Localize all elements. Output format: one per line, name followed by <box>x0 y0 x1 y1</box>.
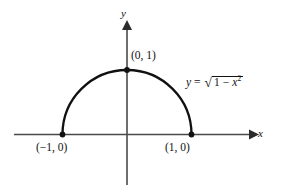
graph-canvas <box>0 0 282 190</box>
point-label-top: (0, 1) <box>131 50 156 62</box>
radicand-first-term: 1 <box>214 76 220 88</box>
semicircle-graph-figure: y x (0, 1) (−1, 0) (1, 0) y=√1−x2 <box>0 0 282 190</box>
curve-equation-label: y=√1−x2 <box>186 76 243 90</box>
radical-expression: √1−x2 <box>204 76 244 90</box>
equation-equals: = <box>194 76 201 88</box>
radicand-exponent: 2 <box>237 74 241 83</box>
point-marker-top <box>124 67 130 73</box>
y-axis-label: y <box>121 8 126 19</box>
x-axis-label: x <box>258 128 263 139</box>
point-marker-left <box>60 132 66 138</box>
y-axis-arrowhead <box>122 20 132 30</box>
point-label-left: (−1, 0) <box>36 142 67 154</box>
radicand-minus-sign: − <box>223 76 230 88</box>
radical-sign-icon: √ <box>205 76 212 90</box>
point-label-right: (1, 0) <box>165 142 190 154</box>
radicand: 1−x2 <box>212 76 243 89</box>
point-marker-right <box>189 132 195 138</box>
equation-lhs: y <box>186 76 191 88</box>
